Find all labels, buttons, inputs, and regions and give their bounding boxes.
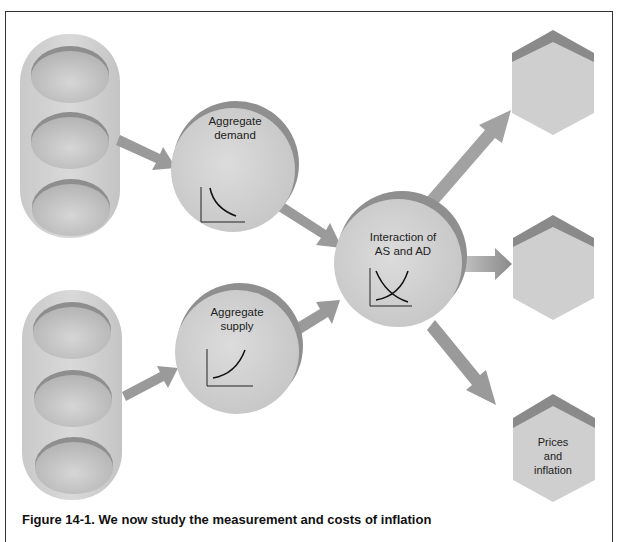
node-aggregate-supply: [175, 283, 303, 414]
arrow-supply-in: [122, 366, 178, 401]
label-line: inflation: [518, 463, 588, 477]
label-aggregate-supply: Aggregate supply: [192, 305, 282, 333]
node-output-top: [512, 30, 594, 135]
label-line: Interaction of: [353, 230, 453, 244]
label-line: and: [518, 449, 588, 463]
label-line: demand: [190, 128, 280, 142]
label-line: supply: [192, 319, 282, 333]
node-output-middle: [513, 215, 594, 320]
label-line: Aggregate: [190, 114, 280, 128]
label-aggregate-demand: Aggregate demand: [190, 114, 280, 142]
input-group-bottom: [22, 290, 122, 500]
label-line: Aggregate: [192, 305, 282, 319]
figure-caption: Figure 14-1. We now study the measuremen…: [22, 512, 431, 527]
arrow-to-output-bottom: [427, 320, 496, 405]
arrow-demand-to-interaction: [275, 200, 342, 248]
label-prices-inflation: Prices and inflation: [518, 435, 588, 477]
input-group-top: [20, 34, 120, 238]
arrow-demand-in: [116, 135, 176, 170]
label-line: Prices: [518, 435, 588, 449]
arrow-to-output-top: [420, 110, 511, 213]
label-line: AS and AD: [353, 244, 453, 258]
arrow-to-output-middle: [460, 248, 512, 280]
node-interaction: [334, 191, 467, 327]
label-interaction: Interaction of AS and AD: [353, 230, 453, 258]
